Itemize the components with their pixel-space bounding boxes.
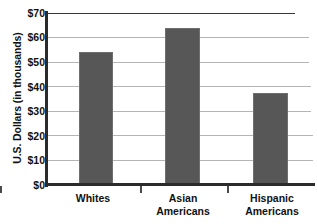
y-tick-label-50: $50 (3, 57, 45, 68)
bar-asian-americans (165, 28, 200, 185)
y-axis-tick-labels: $70 $60 $50 $40 $30 $20 $10 $0 (0, 0, 45, 224)
x-axis-label-whites: Whites (53, 192, 133, 205)
y-tick-label-60: $60 (3, 32, 45, 43)
y-tick-label-20: $20 (3, 131, 45, 142)
y-tick-label-0: $0 (3, 180, 45, 191)
bar-chart: U.S. Dollars (in thousands) $70 $60 $50 … (0, 0, 317, 224)
x-label-line-2: Americans (228, 205, 316, 218)
y-tick-label-70: $70 (3, 8, 45, 19)
plot-top-border (47, 13, 295, 14)
bar-hispanic-americans (253, 93, 288, 185)
y-axis-line (45, 11, 48, 187)
x-axis-label-asian-americans: Asian Americans (141, 192, 225, 217)
y-tick-label-30: $30 (3, 106, 45, 117)
y-tick-label-40: $40 (3, 82, 45, 93)
bar-whites (79, 52, 113, 185)
x-axis-label-hispanic-americans: Hispanic Americans (228, 192, 316, 217)
x-label-line-1: Hispanic (228, 192, 316, 205)
x-label-line-1: Whites (53, 192, 133, 205)
y-tick-label-10: $10 (3, 155, 45, 166)
x-label-line-1: Asian (141, 192, 225, 205)
x-label-line-2: Americans (141, 205, 225, 218)
plot-area (47, 13, 315, 185)
x-axis-baseline (45, 183, 315, 186)
